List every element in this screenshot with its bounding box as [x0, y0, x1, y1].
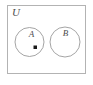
set-a-label: A: [28, 29, 35, 39]
venn-diagram: U A B: [0, 0, 93, 85]
element-marker-square: [34, 46, 38, 50]
universal-set-label: U: [12, 6, 21, 18]
set-b-label: B: [63, 28, 69, 38]
venn-diagram-canvas: U A B: [0, 0, 93, 85]
